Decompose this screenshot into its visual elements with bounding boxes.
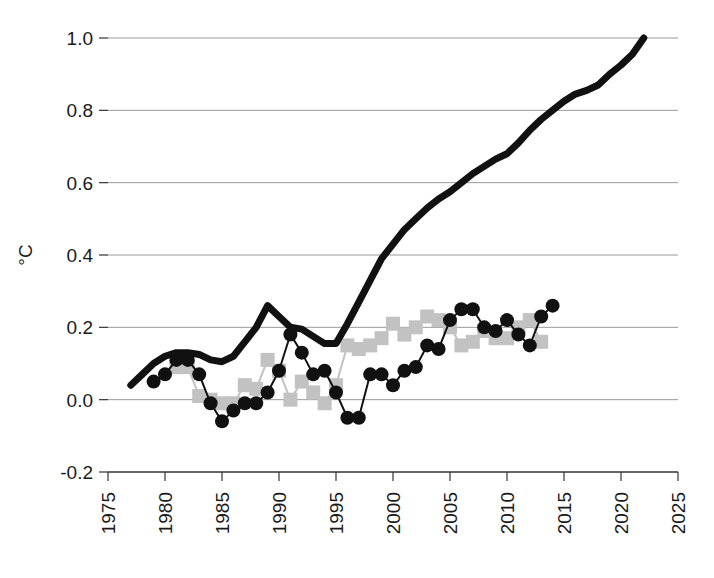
data-point [295,346,309,360]
x-tick-label: 1975 [98,492,119,534]
x-tick-label: 2000 [383,492,404,534]
data-point [249,396,263,410]
x-tick-label: 1990 [269,492,290,534]
data-point [158,367,172,381]
y-tick-label: 0.0 [67,390,93,411]
y-tick-label: 0.8 [67,100,93,121]
data-point [432,342,446,356]
x-tick-label: 2025 [668,492,689,534]
x-tick-label: 2020 [611,492,632,534]
data-point [500,313,514,327]
data-point [375,331,389,345]
y-axis-ticks [99,38,108,472]
series-layer [131,38,644,428]
data-point [443,313,457,327]
data-point [386,378,400,392]
x-tick-label: 1995 [326,492,347,534]
y-tick-label: 0.6 [67,173,93,194]
y-tick-label: 0.4 [67,245,94,266]
data-point [466,302,480,316]
data-point [523,338,537,352]
x-tick-label: 1980 [155,492,176,534]
data-point [352,411,366,425]
data-point [261,385,275,399]
x-axis-ticks [108,472,678,481]
data-point [283,328,297,342]
data-point [534,309,548,323]
y-tick-label: 1.0 [67,28,93,49]
chart-container: -0.20.00.20.40.60.81.0 19751980198519901… [0,0,714,578]
y-axis-tick-labels: -0.20.00.20.40.60.81.0 [60,28,93,483]
data-point [204,396,218,410]
x-tick-label: 2015 [554,492,575,534]
y-axis-title: °C [15,244,36,265]
temperature-anomaly-line-chart: -0.20.00.20.40.60.81.0 19751980198519901… [0,0,714,578]
x-tick-label: 1985 [212,492,233,534]
data-point [409,360,423,374]
data-point [546,299,560,313]
data-point [511,328,525,342]
data-point [318,364,332,378]
data-point [489,324,503,338]
data-point [375,367,389,381]
x-tick-label: 2005 [440,492,461,534]
data-point [329,385,343,399]
data-point [215,414,229,428]
y-tick-label: -0.2 [60,462,93,483]
data-point [318,396,332,410]
y-tick-label: 0.2 [67,317,93,338]
data-point [192,367,206,381]
x-axis-tick-labels: 1975198019851990199520002005201020152020… [98,492,689,534]
data-point [283,393,297,407]
gridlines [108,38,678,400]
x-tick-label: 2010 [497,492,518,534]
data-point [272,364,286,378]
y-axis-label: °C [15,244,36,265]
data-point [181,353,195,367]
